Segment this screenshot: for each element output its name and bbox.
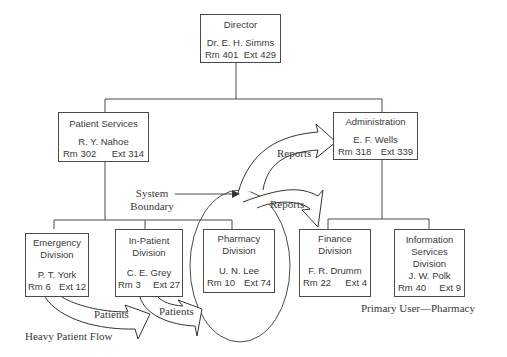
system-boundary-line1: System [130,187,174,200]
node-title: Division [204,245,274,257]
heavy-patient-flow-label: Heavy Patient Flow [25,330,112,343]
system-boundary-label: System Boundary [130,187,174,213]
node-title: In-Patient [116,235,182,247]
node-title: Pharmacy [204,233,274,245]
node-room: Rm 10 [207,277,235,289]
node-person: E. F. Wells [334,134,417,146]
primary-user-label: Primary User—Pharmacy [361,302,475,315]
node-title: Division [395,258,464,270]
node-ext: Ext 4 [345,277,367,289]
node-room: Rm 22 [303,277,331,289]
node-title: Division [300,245,370,257]
node-person: U. N. Lee [204,265,274,277]
node-ext: Ext 12 [59,281,86,293]
node-pharmacy-division: Pharmacy Division U. N. Lee Rm 10Ext 74 [203,229,275,293]
node-person: J. W. Polk [395,270,464,282]
node-person: F. R. Drumm [300,265,370,277]
node-room: Rm 318 [338,146,371,158]
node-director: Director Dr. E. H. Simms Rm 401Ext 429 [200,14,281,63]
patients-label-1: Patients [94,308,129,321]
node-emergency-division: Emergency Division P. T. York Rm 6Ext 12 [25,233,89,297]
node-title: Services [395,246,464,258]
node-title: Division [116,247,182,259]
node-ext: Ext 9 [439,282,461,294]
node-information-services-division: Information Services Division J. W. Polk… [394,229,465,297]
node-inpatient-division: In-Patient Division C. E. Grey Rm 3Ext 2… [115,229,183,297]
node-person: Dr. E. H. Simms [201,37,280,49]
node-title: Finance [300,233,370,245]
system-boundary-line2: Boundary [130,200,174,213]
node-room: Rm 401 [205,49,238,61]
node-ext: Ext 27 [153,279,180,291]
node-ext: Ext 339 [381,146,413,158]
node-ext: Ext 314 [112,148,144,160]
node-title: Administration [334,116,417,128]
node-title: Information [395,234,464,246]
patients-label-2: Patients [159,305,194,318]
node-title: Director [201,19,280,31]
node-person: R. Y. Nahoe [59,136,148,148]
node-room: Rm 3 [118,279,141,291]
node-person: C. E. Grey [116,267,182,279]
node-administration: Administration E. F. Wells Rm 318Ext 339 [333,112,418,160]
node-finance-division: Finance Division F. R. Drumm Rm 22Ext 4 [299,229,371,297]
node-title: Patient Services [59,118,148,130]
node-room: Rm 6 [28,281,51,293]
node-patient-services: Patient Services R. Y. Nahoe Rm 302Ext 3… [58,112,149,162]
node-room: Rm 302 [63,148,96,160]
reports-label-upper: Reports [277,147,311,160]
node-ext: Ext 74 [244,277,271,289]
node-title: Division [26,249,88,261]
node-room: Rm 40 [398,282,426,294]
reports-label-lower: Reports [270,198,304,211]
node-title: Emergency [26,237,88,249]
node-ext: Ext 429 [244,49,276,61]
node-person: P. T. York [26,269,88,281]
